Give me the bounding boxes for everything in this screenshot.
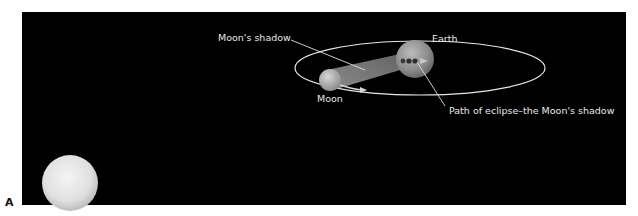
panel-label: A	[5, 196, 14, 209]
label-path-of-eclipse: Path of eclipse–the Moon's shadow	[449, 105, 615, 116]
label-moons-shadow: Moon's shadow	[218, 32, 291, 43]
eclipse-diagram: Moon's shadow Earth Moon Path of eclipse…	[0, 0, 638, 216]
sun	[42, 155, 98, 211]
moon	[319, 69, 341, 91]
label-moon: Moon	[317, 93, 343, 104]
label-earth: Earth	[432, 33, 457, 44]
